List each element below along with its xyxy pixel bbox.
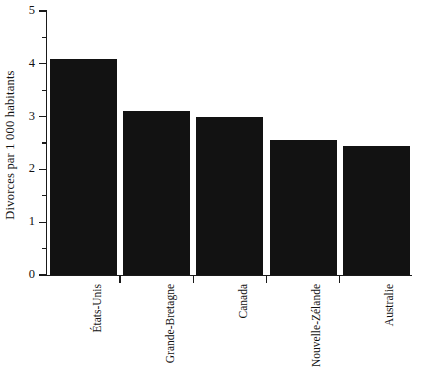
bar	[196, 117, 263, 275]
x-tick	[339, 276, 340, 283]
bar	[123, 111, 190, 275]
y-tick-label: 4	[0, 57, 35, 70]
y-tick-label: 0	[0, 268, 35, 281]
x-axis-line	[46, 275, 412, 276]
x-category-label: Canada	[236, 284, 250, 370]
x-tick	[193, 276, 194, 283]
bar	[50, 59, 117, 275]
x-category-label: États-Unis	[90, 284, 104, 370]
x-category-label: Australie	[382, 284, 396, 370]
x-category-label: Nouvelle-Zélande	[309, 284, 323, 370]
y-tick-label: 1	[0, 215, 35, 228]
y-tick-label: 2	[0, 162, 35, 175]
plot-area	[46, 11, 412, 275]
y-axis-title: Divorces par 1 000 habitants	[0, 0, 20, 290]
bar	[270, 140, 337, 275]
bar-chart: Divorces par 1 000 habitants 012345 État…	[0, 0, 425, 370]
x-tick	[266, 276, 267, 283]
x-category-label: Grande-Bretagne	[163, 284, 177, 370]
bar	[343, 146, 410, 275]
y-tick-label: 3	[0, 110, 35, 123]
y-tick-label: 5	[0, 4, 35, 17]
x-tick	[119, 276, 120, 283]
